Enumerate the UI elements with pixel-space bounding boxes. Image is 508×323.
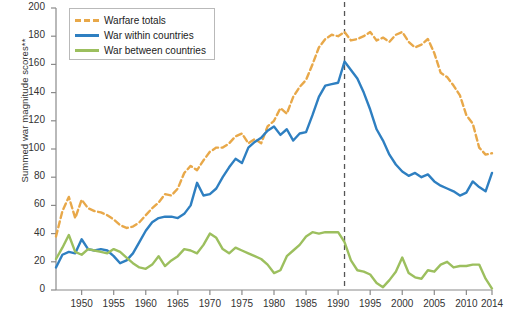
- y-tick-160: 160: [15, 57, 45, 68]
- y-tick-80: 80: [15, 170, 45, 181]
- x-tick-1990: 1990: [320, 298, 356, 309]
- x-tick-1975: 1975: [224, 298, 260, 309]
- series-line-war-within-countries: [56, 62, 492, 268]
- x-tick-1995: 1995: [352, 298, 388, 309]
- legend-item-war-within-countries: War within countries: [75, 28, 209, 43]
- y-tick-200: 200: [15, 1, 45, 12]
- series-line-war-between-countries: [56, 232, 492, 288]
- y-tick-40: 40: [15, 227, 45, 238]
- x-tick-1965: 1965: [160, 298, 196, 309]
- x-tick-1985: 1985: [288, 298, 324, 309]
- y-tick-100: 100: [15, 142, 45, 153]
- x-tick-2005: 2005: [416, 298, 452, 309]
- legend-item-war-between-countries: War between countries: [75, 43, 209, 58]
- x-tick-1950: 1950: [64, 298, 100, 309]
- series-line-warfare-totals: [56, 32, 492, 236]
- x-tick-1960: 1960: [128, 298, 164, 309]
- legend-item-warfare-totals: Warfare totals: [75, 13, 209, 28]
- legend-swatch-war-within-countries: [75, 34, 99, 37]
- x-tick-1955: 1955: [96, 298, 132, 309]
- x-tick-2014: 2014: [474, 298, 508, 309]
- line-chart: Summed war magnitude scores** 0204060801…: [0, 0, 508, 323]
- y-tick-60: 60: [15, 198, 45, 209]
- x-tick-1970: 1970: [192, 298, 228, 309]
- legend-label-war-between-countries: War between countries: [104, 45, 206, 56]
- y-tick-0: 0: [15, 283, 45, 294]
- y-tick-120: 120: [15, 114, 45, 125]
- y-tick-180: 180: [15, 29, 45, 40]
- legend-swatch-war-between-countries: [75, 49, 99, 52]
- x-tick-1980: 1980: [256, 298, 292, 309]
- legend-label-war-within-countries: War within countries: [104, 30, 194, 41]
- y-tick-20: 20: [15, 255, 45, 266]
- y-tick-140: 140: [15, 86, 45, 97]
- legend-label-warfare-totals: Warfare totals: [104, 15, 166, 26]
- legend-swatch-warfare-totals: [75, 19, 99, 22]
- chart-legend: Warfare totals War within countries War …: [69, 8, 215, 60]
- x-tick-2000: 2000: [384, 298, 420, 309]
